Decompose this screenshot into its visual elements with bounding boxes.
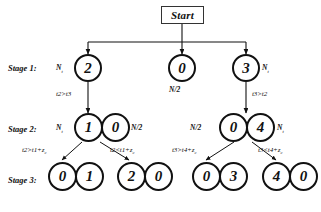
stage1-node-1-capacity: Nt [56, 63, 63, 72]
edge-s2-to-s3-ll [62, 142, 82, 160]
stage3-node-2: 1 [75, 162, 104, 191]
stage2-node-2-value: 0 [112, 120, 120, 135]
stage-label-3: Stage 3: [8, 175, 37, 185]
stage2-node-1-value: 1 [85, 120, 93, 135]
edge-label-s2-rr: t3<t4+zc [258, 146, 282, 154]
edge-label-s2-lr: t2<t1+zc [110, 146, 134, 154]
stage1-node-1: 2 [74, 54, 102, 82]
stage1-node-3: 3 [232, 54, 260, 82]
stage2-node-2: 0 [101, 113, 130, 142]
edge-label-s1-left: t2>t3 [56, 90, 71, 98]
capacity-symbol: N/2 [131, 123, 142, 132]
capacity-symbol: N/2 [169, 85, 180, 94]
stage2-node-4: 4 [246, 113, 275, 142]
capacity-subscript: t [61, 129, 62, 134]
stage1-node-2: 0 [168, 54, 196, 82]
stage2-node-3-value: 0 [230, 120, 238, 135]
edge-label-subscript: c [132, 150, 134, 155]
edge-label-s2-rl: t3>t4+zc [172, 146, 196, 154]
stage3-node-8-value: 0 [300, 169, 308, 184]
edge-label-text: t3>t4+z [172, 146, 194, 154]
stage3-node-1: 0 [48, 162, 77, 191]
stage2-node-2-capacity: N/2 [131, 123, 142, 132]
capacity-subscript: t [61, 69, 62, 74]
stage2-node-4-capacity: Nt [277, 123, 284, 132]
stage-label-1: Stage 1: [8, 63, 37, 73]
stage3-node-7: 4 [262, 162, 291, 191]
stage2-node-3-capacity: N/2 [190, 123, 201, 132]
stage-label-2: Stage 2: [8, 124, 37, 134]
edge-label-text: t2>t3 [56, 90, 71, 98]
stage3-node-8: 0 [289, 162, 318, 191]
capacity-subscript: t [267, 69, 268, 74]
edge-label-s2-ll: t2>t1+zc [22, 146, 46, 154]
start-box: Start [161, 6, 204, 24]
stage1-node-2-value: 0 [178, 61, 186, 76]
stage3-node-6-value: 3 [230, 169, 238, 184]
flow-diagram: Start Stage 1: 2 Nt 0 N/2 3 Nt t2>t3 t3>… [0, 0, 321, 212]
stage1-node-3-value: 3 [242, 61, 250, 76]
stage2-node-3: 0 [219, 113, 248, 142]
stage3-node-5-value: 0 [203, 169, 211, 184]
stage2-node-1: 1 [74, 113, 103, 142]
stage3-node-3-value: 2 [128, 169, 136, 184]
stage3-node-1-value: 0 [59, 169, 67, 184]
stage3-node-2-value: 1 [86, 169, 94, 184]
stage2-node-1-capacity: Nt [56, 123, 63, 132]
edge-label-subscript: c [194, 150, 196, 155]
stage3-node-4-value: 0 [155, 169, 163, 184]
capacity-symbol: N/2 [190, 123, 201, 132]
edge-label-subscript: c [280, 150, 282, 155]
edge-label-s1-right: t3>t2 [252, 90, 267, 98]
stage3-node-5: 0 [192, 162, 221, 191]
stage1-node-2-capacity: N/2 [169, 85, 180, 94]
stage1-node-1-value: 2 [84, 61, 92, 76]
start-label: Start [171, 9, 194, 21]
edge-label-text: t2>t1+z [22, 146, 44, 154]
stage2-node-4-value: 4 [257, 120, 265, 135]
edge-label-text: t3>t2 [252, 90, 267, 98]
stage3-node-7-value: 4 [273, 169, 281, 184]
stage3-node-3: 2 [117, 162, 146, 191]
edge-s2-to-s3-rl [206, 142, 234, 160]
stage1-node-3-capacity: Nt [262, 63, 269, 72]
capacity-subscript: t [282, 129, 283, 134]
stage3-node-6: 3 [219, 162, 248, 191]
edge-label-subscript: c [44, 150, 46, 155]
stage3-node-4: 0 [144, 162, 173, 191]
edge-label-text: t2<t1+z [110, 146, 132, 154]
edge-label-text: t3<t4+z [258, 146, 280, 154]
